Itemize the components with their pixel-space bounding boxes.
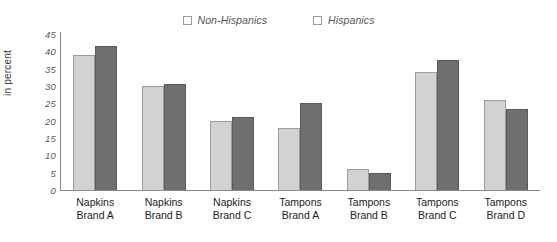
y-tick-label: 0 bbox=[28, 185, 56, 196]
category-label: TamponsBrand D bbox=[472, 196, 540, 221]
bar-1[interactable] bbox=[232, 117, 254, 190]
bar-0[interactable] bbox=[278, 128, 300, 190]
bar-0[interactable] bbox=[347, 169, 369, 190]
bar-1[interactable] bbox=[300, 103, 322, 190]
category-label: TamponsBrand C bbox=[403, 196, 471, 221]
category-label-line: Brand C bbox=[403, 209, 471, 222]
y-axis-title: in percent bbox=[2, 50, 13, 96]
category-label-line: Napkins bbox=[198, 196, 266, 209]
category-label-line: Napkins bbox=[61, 196, 129, 209]
bar-group bbox=[472, 34, 540, 190]
plot-area bbox=[61, 34, 540, 190]
category-label-line: Brand A bbox=[266, 209, 334, 222]
category-label: TamponsBrand B bbox=[335, 196, 403, 221]
category-label-line: Tampons bbox=[266, 196, 334, 209]
category-label: TamponsBrand A bbox=[266, 196, 334, 221]
bar-group bbox=[61, 34, 129, 190]
category-label-line: Brand B bbox=[335, 209, 403, 222]
legend-swatch-non-hispanics bbox=[183, 16, 192, 25]
bar-group bbox=[198, 34, 266, 190]
bar-0[interactable] bbox=[73, 55, 95, 190]
category-label-line: Napkins bbox=[129, 196, 197, 209]
bar-0[interactable] bbox=[142, 86, 164, 190]
category-label-line: Brand C bbox=[198, 209, 266, 222]
category-label: NapkinsBrand A bbox=[61, 196, 129, 221]
bar-1[interactable] bbox=[506, 109, 528, 190]
category-label-line: Brand D bbox=[472, 209, 540, 222]
category-label-line: Brand B bbox=[129, 209, 197, 222]
bar-1[interactable] bbox=[369, 173, 391, 190]
bar-1[interactable] bbox=[164, 84, 186, 190]
bar-chart: Non-Hispanics Hispanics in percent 45403… bbox=[0, 0, 557, 242]
y-axis-ticks: 454035302520151050 bbox=[28, 0, 56, 242]
x-axis-line bbox=[60, 190, 540, 191]
bar-0[interactable] bbox=[415, 72, 437, 190]
y-tick-label: 20 bbox=[28, 115, 56, 126]
category-label-line: Tampons bbox=[403, 196, 471, 209]
legend-item-hispanics: Hispanics bbox=[313, 14, 374, 26]
category-label: NapkinsBrand B bbox=[129, 196, 197, 221]
bar-group bbox=[129, 34, 197, 190]
y-tick-label: 25 bbox=[28, 98, 56, 109]
bar-1[interactable] bbox=[95, 46, 117, 190]
bar-group bbox=[335, 34, 403, 190]
chart-legend: Non-Hispanics Hispanics bbox=[0, 14, 557, 26]
bar-0[interactable] bbox=[210, 121, 232, 190]
y-tick-label: 35 bbox=[28, 63, 56, 74]
category-label-line: Tampons bbox=[335, 196, 403, 209]
y-tick-label: 30 bbox=[28, 81, 56, 92]
legend-swatch-hispanics bbox=[313, 16, 322, 25]
category-label: NapkinsBrand C bbox=[198, 196, 266, 221]
y-tick-label: 5 bbox=[28, 167, 56, 178]
x-axis-category-labels: NapkinsBrand ANapkinsBrand BNapkinsBrand… bbox=[61, 196, 540, 221]
legend-label-non-hispanics: Non-Hispanics bbox=[198, 14, 268, 26]
bar-group bbox=[403, 34, 471, 190]
category-label-line: Brand A bbox=[61, 209, 129, 222]
bar-group bbox=[266, 34, 334, 190]
y-tick-label: 15 bbox=[28, 133, 56, 144]
y-tick-label: 45 bbox=[28, 29, 56, 40]
y-tick-label: 40 bbox=[28, 46, 56, 57]
bar-0[interactable] bbox=[484, 100, 506, 190]
legend-item-non-hispanics: Non-Hispanics bbox=[183, 14, 268, 26]
y-tick-label: 10 bbox=[28, 150, 56, 161]
legend-label-hispanics: Hispanics bbox=[328, 14, 374, 26]
bar-1[interactable] bbox=[437, 60, 459, 190]
category-label-line: Tampons bbox=[472, 196, 540, 209]
